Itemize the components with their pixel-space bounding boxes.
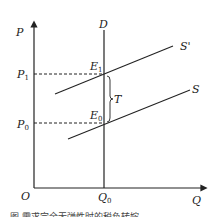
x-axis-label: Q — [192, 194, 201, 207]
origin-label: O — [21, 190, 30, 203]
supply-curve — [68, 90, 190, 139]
figure-caption: 图 需求完全无弹性时的税负转嫁 — [10, 211, 139, 217]
demand-label: D — [98, 18, 108, 31]
e0-label: E0 — [89, 109, 103, 123]
tax-brace — [107, 76, 113, 122]
tax-incidence-diagram: P Q O D S S' T P1 P0 E1 E0 Q0 图 需求完全无弹性时… — [0, 0, 217, 217]
y-axis-label: P — [15, 26, 24, 39]
e1-label: E1 — [89, 60, 103, 74]
tax-label: T — [114, 93, 123, 106]
p0-label: P0 — [16, 118, 29, 132]
supply-label: S — [192, 83, 200, 96]
supply-curve-after-tax — [55, 46, 173, 94]
supply-after-tax-label: S' — [180, 40, 191, 53]
p1-label: P1 — [16, 68, 29, 82]
q0-label: Q0 — [98, 191, 112, 205]
